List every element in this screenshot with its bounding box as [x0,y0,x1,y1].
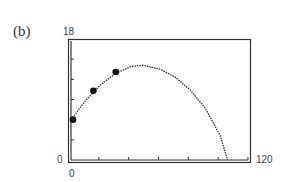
chart-frame [69,40,251,163]
axis-ticks [71,59,248,160]
data-point-marker [70,116,77,123]
model-curve [71,65,228,160]
chart-plot-area [0,0,281,182]
data-point-marker [112,69,119,76]
data-points [70,69,119,123]
data-point-marker [90,87,97,94]
